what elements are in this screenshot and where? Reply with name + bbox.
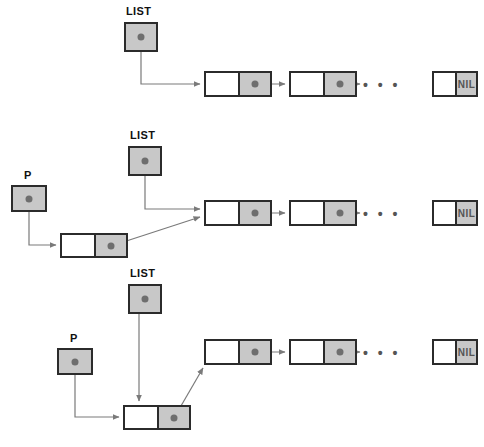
cell-data-field	[434, 341, 455, 363]
pointer-dot-icon	[252, 349, 259, 356]
stage-list-updated: LISTPNIL• • •	[0, 0, 484, 447]
cell-data-field	[291, 341, 323, 363]
pointer-dot-icon	[72, 358, 79, 365]
list-cell-new-head-node[interactable]	[123, 405, 191, 430]
linked-list-insertion-diagram: LISTNIL• • •LISTPNIL• • •LISTPNIL• • •	[0, 0, 484, 447]
list-cell-chain-node-1[interactable]	[204, 339, 272, 365]
variable-label-list: LIST	[130, 267, 155, 279]
list-cell-chain-node-2[interactable]	[289, 339, 357, 365]
pointer-dot-icon	[171, 414, 178, 421]
variable-label-p: P	[70, 332, 78, 344]
cell-link-field	[238, 341, 270, 363]
pointer-dot-icon	[142, 296, 149, 303]
pointer-dot-icon	[337, 349, 344, 356]
cell-data-field	[206, 341, 238, 363]
cell-link-field	[323, 341, 355, 363]
list-cell-chain-tail-nil[interactable]: NIL	[432, 339, 478, 365]
cell-data-field	[125, 407, 157, 428]
cell-nil-field: NIL	[455, 341, 476, 363]
chain-continuation-ellipsis: • • •	[363, 345, 400, 361]
pointer-variable-list[interactable]	[128, 284, 162, 314]
pointer-variable-p[interactable]	[57, 348, 93, 375]
node-layer: LISTNIL• • •LISTPNIL• • •LISTPNIL• • •	[0, 0, 484, 447]
cell-link-field	[157, 407, 189, 428]
